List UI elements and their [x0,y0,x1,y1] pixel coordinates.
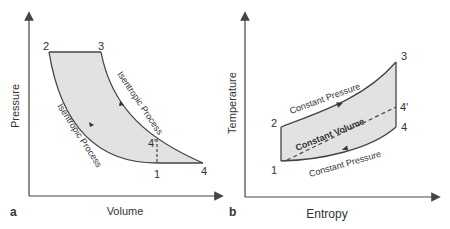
panel-b-ts-diagram: 2 3 4' 4 1 Constant Pressure Constant Vo… [226,16,436,221]
point-4-label: 4 [401,121,407,133]
point-3-label: 3 [98,40,104,52]
cycle-area [49,52,203,163]
x-axis-label: Entropy [306,207,347,221]
panel-label-a: a [10,205,17,219]
point-3-label: 3 [401,50,407,62]
x-axis-label: Volume [107,205,144,217]
panel-a-pv-diagram: 2 3 4 1 4' Isentropic Process Isentropic… [9,16,219,219]
point-1-label: 1 [271,164,277,176]
point-2-label: 2 [271,117,277,129]
y-axis-label: Pressure [9,84,21,128]
y-axis-label: Temperature [226,72,238,134]
panel-label-b: b [229,205,236,219]
point-2-label: 2 [43,40,49,52]
point-4prime-label: 4' [400,101,408,113]
diagram-canvas: 2 3 4 1 4' Isentropic Process Isentropic… [0,0,450,229]
point-4-label: 4 [201,165,207,177]
point-1-label: 1 [154,168,160,180]
point-4prime-label: 4' [148,137,156,149]
